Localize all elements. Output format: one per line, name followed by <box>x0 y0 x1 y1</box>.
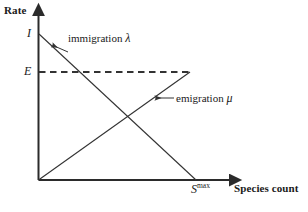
y-axis-tick-label-equilibrium-rate: E <box>24 65 31 77</box>
y-axis-tick-label-immigration-max: I <box>27 27 31 39</box>
mu-symbol: μ <box>226 91 232 105</box>
emigration-series-label: emigration μ <box>176 92 232 104</box>
emigration-curve <box>39 72 191 180</box>
immigration-label-text: immigration <box>68 32 122 44</box>
immigration-series-label: immigration λ <box>68 32 130 44</box>
x-axis-title: Species count <box>234 183 299 194</box>
y-axis-title: Rate <box>4 5 26 16</box>
emigration-label-text: emigration <box>176 92 224 104</box>
island-biogeography-rate-diagram: Rate I E immigration λ emigration μ Smax… <box>0 0 308 212</box>
plot-area <box>0 0 308 212</box>
x-axis-tick-label-smax: Smax <box>191 183 210 195</box>
smax-superscript: max <box>197 181 210 190</box>
lambda-symbol: λ <box>125 31 130 45</box>
immigration-curve <box>39 34 196 180</box>
